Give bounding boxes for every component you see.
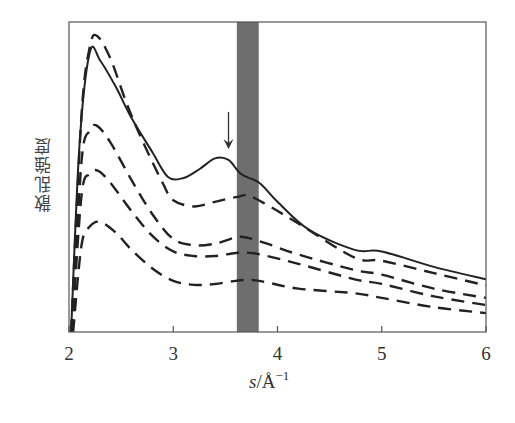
x-tick-label: 2 — [64, 343, 74, 364]
series-solid — [71, 47, 486, 332]
x-axis-label: s/Å−1 — [249, 368, 289, 392]
x-tick-label: 6 — [481, 343, 491, 364]
series-dashed-4 — [73, 222, 486, 332]
series-dashed-3 — [72, 170, 486, 332]
x-tick-label: 3 — [169, 343, 179, 364]
x-tick-label: 4 — [273, 343, 283, 364]
series-dashed-2 — [72, 125, 486, 332]
x-tick-label: 5 — [377, 343, 387, 364]
scattering-intensity-chart: 23456 s/Å−1 — [0, 0, 515, 423]
y-axis-label: 散乱強度 — [30, 128, 56, 220]
arrow-annotation — [224, 112, 234, 149]
series-curves — [71, 35, 486, 332]
